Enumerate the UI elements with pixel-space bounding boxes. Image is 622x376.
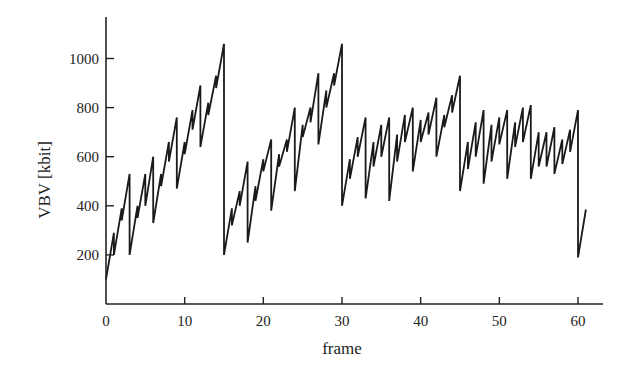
y-tick-label: 1000 xyxy=(69,51,99,67)
y-ticks: 2004006008001000 xyxy=(69,51,114,263)
y-tick-label: 200 xyxy=(77,247,100,263)
axes: 0102030405060 2004006008001000 xyxy=(69,17,603,329)
y-axis-label: VBV [kbit] xyxy=(35,141,54,219)
x-tick-label: 20 xyxy=(256,313,271,329)
y-tick-label: 400 xyxy=(77,198,100,214)
vbv-series-line xyxy=(106,44,586,280)
vbv-chart: 0102030405060 2004006008001000 frame VBV… xyxy=(0,0,622,376)
x-ticks: 0102030405060 xyxy=(102,297,585,329)
x-tick-label: 50 xyxy=(492,313,507,329)
y-tick-label: 800 xyxy=(77,100,100,116)
x-tick-label: 40 xyxy=(413,313,428,329)
x-tick-label: 30 xyxy=(335,313,350,329)
y-tick-label: 600 xyxy=(77,149,100,165)
x-axis-label: frame xyxy=(322,339,362,358)
x-tick-label: 10 xyxy=(177,313,192,329)
x-tick-label: 0 xyxy=(102,313,110,329)
x-tick-label: 60 xyxy=(571,313,586,329)
